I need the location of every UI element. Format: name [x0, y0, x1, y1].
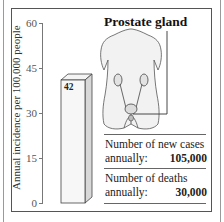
- new-cases-label-line2: annually:: [105, 152, 148, 164]
- divider-top: [104, 134, 206, 135]
- new-cases-value: 105,000: [170, 152, 207, 164]
- deaths-label-line1: Number of deaths: [105, 172, 187, 184]
- divider-bottom: [104, 203, 206, 204]
- deaths-value: 30,000: [175, 186, 207, 198]
- deaths-label-line2: annually:: [105, 186, 148, 198]
- divider-middle: [104, 168, 206, 169]
- incidence-bar: [61, 74, 92, 203]
- new-cases-label-line1: Number of new cases: [105, 138, 204, 150]
- bar-value-label: 42: [64, 82, 74, 92]
- chart-title: Prostate gland: [104, 14, 214, 30]
